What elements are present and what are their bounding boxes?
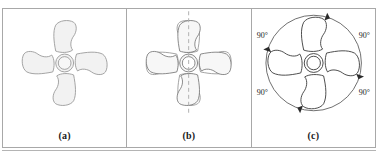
panel-b: (b)	[126, 9, 250, 147]
blade-shape	[75, 52, 107, 74]
bottom-divider-rule	[2, 150, 376, 151]
panel-a: (a)	[3, 9, 126, 147]
angle-label-bottom-left: 90°	[257, 88, 268, 97]
impeller-diagram-a	[3, 9, 126, 117]
panel-b-caption: (b)	[127, 130, 250, 141]
impeller-diagram-c	[252, 9, 375, 117]
figure-container: (a)	[0, 0, 378, 156]
hub-inner-ring	[58, 57, 71, 70]
blade-shape	[325, 51, 359, 76]
angle-label-bottom-right: 90°	[359, 88, 370, 97]
panel-c: 90° 90° 90° 90° (c)	[251, 9, 375, 147]
impeller-diagram-b	[127, 9, 250, 117]
blade-shape	[301, 75, 326, 109]
cut-off-text-above	[0, 0, 378, 5]
hub-inner-ring	[307, 56, 321, 70]
blade-shape	[54, 21, 76, 53]
angle-label-top-left: 90°	[257, 31, 268, 40]
panel-a-caption: (a)	[3, 130, 126, 141]
blade-shape	[301, 17, 326, 51]
panel-row: (a)	[2, 8, 376, 148]
panel-b-canvas	[127, 9, 250, 117]
panel-a-canvas	[3, 9, 126, 117]
blade-shape	[53, 74, 75, 106]
angle-label-top-right: 90°	[359, 31, 370, 40]
blade-shape	[268, 50, 302, 75]
blade-shape	[22, 51, 54, 73]
panel-c-canvas	[252, 9, 375, 117]
panel-c-caption: (c)	[252, 130, 375, 141]
